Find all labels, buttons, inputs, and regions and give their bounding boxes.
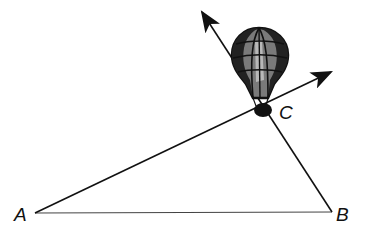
point-label-A: A: [14, 205, 27, 224]
triangle-diagram: [0, 0, 371, 245]
point-label-B: B: [336, 205, 349, 224]
point-label-C: C: [279, 103, 293, 122]
diagram-canvas: A B C: [0, 0, 371, 245]
segment-AB: [35, 212, 332, 213]
